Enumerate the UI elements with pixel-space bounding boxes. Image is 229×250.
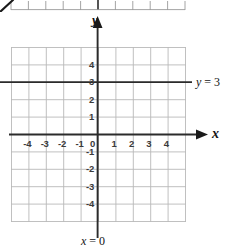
- x-tick-label: 3: [146, 139, 151, 149]
- y-tick-label: 4: [72, 60, 94, 70]
- y-tick-label: -3: [72, 182, 94, 192]
- x-tick-label: -4: [23, 139, 31, 149]
- line-label-x-equals-0: x = 0: [81, 234, 105, 249]
- x-tick-label: 2: [129, 139, 134, 149]
- y-tick-label: 2: [72, 95, 94, 105]
- coordinate-graph-figure: -4 -3 -2 -1 0 1 2 3 4 4 3 2 1 -1 -2 -3 -…: [0, 0, 229, 250]
- line-label-y3-rhs: 3: [214, 75, 220, 89]
- graph-grid: [11, 47, 186, 222]
- y-axis-name-label: y: [92, 12, 98, 28]
- y-tick-label: 1: [72, 112, 94, 122]
- x-tick-label: -2: [58, 139, 66, 149]
- x-axis-arrow-icon: [196, 130, 208, 140]
- y-tick-label: -4: [72, 199, 94, 209]
- partial-grid-svg: [0, 0, 186, 12]
- x-axis-name-label: x: [212, 126, 219, 142]
- line-label-y-equals-3: y = 3: [196, 75, 220, 90]
- y-tick-label: 3: [72, 77, 94, 87]
- x-tick-label: -3: [41, 139, 49, 149]
- x-tick-label: 1: [112, 139, 117, 149]
- line-label-x0-rhs: 0: [99, 234, 105, 248]
- y-tick-label: -1: [72, 147, 94, 157]
- x-tick-label: 4: [164, 139, 169, 149]
- partial-grid-above: [0, 0, 186, 10]
- y-tick-label: -2: [72, 164, 94, 174]
- grid-svg: [11, 47, 186, 222]
